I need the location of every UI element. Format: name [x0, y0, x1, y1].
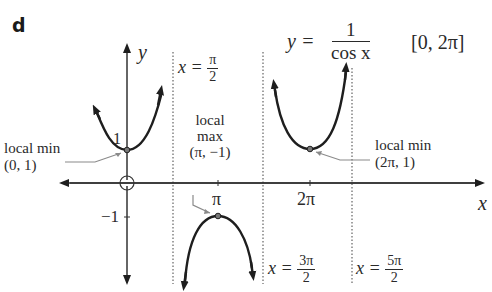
annotation-local-min-2pi: local min (2π, 1) [375, 137, 431, 171]
tick-y-one: 1 [113, 131, 121, 147]
equation-interval: [0, 2π] [411, 32, 464, 52]
tick-x-pi: π [212, 190, 221, 208]
equation-numerator: 1 [332, 20, 370, 42]
equation-lhs: y = [287, 31, 314, 51]
local-min-point-0 [124, 147, 130, 153]
annotation-local-max-pi: local max (π, −1) [180, 112, 240, 160]
asymptote-lines [173, 52, 352, 284]
y-axis-label: y [138, 42, 147, 62]
asymptote-label-3pi-over-2: x = 3π2 [268, 254, 315, 285]
curve-branch-3 [275, 72, 346, 149]
curve-branch-1 [97, 92, 162, 150]
x-axis-label: x [478, 193, 487, 213]
asymptote-label-pi-over-2: x = π2 [178, 53, 218, 84]
asymptote-label-5pi-over-2: x = 5π2 [356, 254, 403, 285]
annotation-local-min-0: local min (0, 1) [4, 140, 60, 174]
local-max-point-pi [215, 213, 221, 219]
tick-y-neg-one: −1 [101, 208, 119, 225]
curve-branch-2 [185, 216, 252, 282]
equation-denominator: cos x [331, 42, 371, 62]
tick-x-two-pi: 2π [297, 190, 315, 208]
equation-fraction: 1 cos x [331, 20, 371, 62]
local-min-point-2pi [307, 146, 313, 152]
